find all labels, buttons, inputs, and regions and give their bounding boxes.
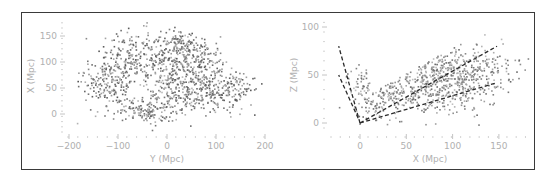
data-point	[412, 79, 414, 81]
data-point	[113, 58, 115, 60]
data-point	[215, 84, 217, 86]
data-point	[486, 65, 488, 67]
data-point	[216, 43, 218, 45]
data-point	[185, 76, 187, 78]
data-point	[90, 88, 92, 90]
data-point	[452, 98, 454, 100]
data-point	[435, 123, 437, 125]
data-point	[444, 59, 446, 61]
data-point	[155, 121, 157, 123]
data-point	[128, 53, 130, 55]
data-point	[395, 117, 397, 119]
data-point	[117, 82, 119, 84]
data-point	[180, 43, 182, 45]
data-point	[493, 52, 495, 54]
data-point	[390, 94, 392, 96]
data-point	[175, 97, 177, 99]
data-point	[176, 74, 178, 76]
data-point	[375, 120, 377, 122]
data-point	[459, 71, 461, 73]
data-point	[518, 78, 520, 80]
data-point	[100, 77, 102, 79]
data-point	[176, 113, 178, 115]
data-point	[218, 80, 220, 82]
data-point	[122, 48, 124, 50]
data-point	[244, 88, 246, 90]
data-point	[90, 109, 92, 111]
data-point	[144, 66, 146, 68]
data-point	[412, 99, 414, 101]
data-point	[228, 90, 230, 92]
data-point	[198, 61, 200, 63]
data-point	[445, 62, 447, 64]
data-point	[465, 88, 467, 90]
data-point	[122, 82, 124, 84]
data-point	[139, 107, 141, 109]
data-point	[182, 35, 184, 37]
data-point	[159, 118, 161, 120]
data-point	[131, 40, 133, 42]
data-point	[172, 106, 174, 108]
data-point	[178, 90, 180, 92]
data-point	[241, 92, 243, 94]
data-point	[144, 115, 146, 117]
data-point	[410, 86, 412, 88]
data-point	[226, 95, 228, 97]
data-point	[200, 67, 202, 69]
data-point	[110, 58, 112, 60]
data-point	[153, 105, 155, 107]
data-point	[168, 87, 170, 89]
data-point	[506, 71, 508, 73]
data-point	[133, 64, 135, 66]
data-point	[111, 81, 113, 83]
data-point	[165, 79, 167, 81]
data-point	[446, 80, 448, 82]
data-point	[443, 102, 445, 104]
data-point	[500, 87, 502, 89]
data-point	[91, 78, 93, 80]
data-point	[465, 77, 467, 79]
data-point	[107, 90, 109, 92]
data-point	[243, 91, 245, 93]
data-point	[460, 83, 462, 85]
data-point	[243, 83, 245, 85]
data-point	[183, 98, 185, 100]
data-point	[369, 82, 371, 84]
data-point	[154, 65, 156, 67]
data-point	[196, 42, 198, 44]
data-point	[142, 71, 144, 73]
data-point	[164, 97, 166, 99]
data-point	[172, 120, 174, 122]
data-point	[108, 65, 110, 67]
data-point	[403, 105, 405, 107]
data-point	[440, 89, 442, 91]
data-point	[193, 67, 195, 69]
data-point	[433, 58, 435, 60]
data-point	[126, 83, 128, 85]
data-point	[431, 105, 433, 107]
data-point	[125, 91, 127, 93]
data-point	[458, 82, 460, 84]
data-point	[233, 96, 235, 98]
data-point	[136, 63, 138, 65]
data-point	[175, 72, 177, 74]
data-point	[383, 95, 385, 97]
data-point	[497, 56, 499, 58]
data-point	[250, 104, 252, 106]
data-point	[424, 68, 426, 70]
data-point	[135, 73, 137, 75]
data-point	[167, 43, 169, 45]
data-point	[160, 70, 162, 72]
data-point	[187, 46, 189, 48]
data-point	[438, 61, 440, 63]
data-point	[140, 84, 142, 86]
data-point	[451, 67, 453, 69]
data-point	[409, 80, 411, 82]
data-point	[181, 63, 183, 65]
data-point	[454, 55, 456, 57]
data-point	[209, 84, 211, 86]
data-point	[477, 91, 479, 93]
data-point	[171, 90, 173, 92]
data-point	[176, 52, 178, 54]
data-point	[477, 69, 479, 71]
